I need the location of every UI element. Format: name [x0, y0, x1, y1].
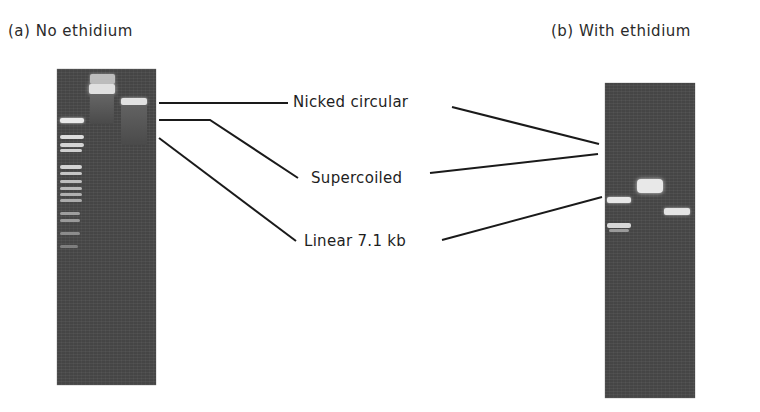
leader-linear-a [159, 138, 296, 241]
leader-lines [0, 0, 760, 412]
leader-supercoiled-a [159, 120, 298, 178]
label-nicked-circular: Nicked circular [293, 93, 408, 111]
label-supercoiled: Supercoiled [311, 169, 402, 187]
leader-linear-b [442, 197, 602, 240]
leader-nicked-b [452, 107, 599, 144]
leader-supercoiled-b [430, 154, 598, 173]
label-linear: Linear 7.1 kb [304, 232, 406, 250]
